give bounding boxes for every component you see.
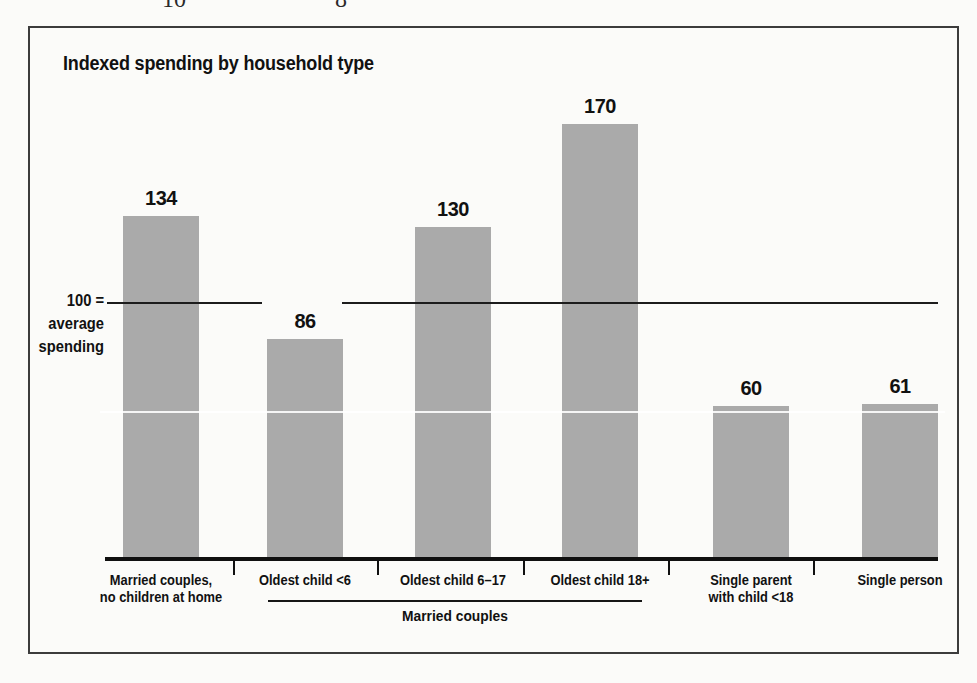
bar-value-label-single-person: 61 xyxy=(889,374,910,398)
reference-line xyxy=(342,302,938,304)
category-label-single-person: Single person xyxy=(857,572,942,589)
axis-tick xyxy=(813,559,815,575)
x-axis-line xyxy=(105,557,938,561)
reference-line-label-line: 100 = xyxy=(23,289,104,312)
bar-value-label-married-couples-no-children-at-home: 134 xyxy=(145,186,177,210)
axis-tick xyxy=(523,559,525,575)
category-label-married-couples-no-children-at-home: Married couples,no children at home xyxy=(100,572,222,606)
category-label-oldest-child-6-17: Oldest child 6–17 xyxy=(400,572,506,589)
bar-value-label-oldest-child-lt-6: 86 xyxy=(294,309,315,333)
group-bracket-line xyxy=(268,600,642,602)
scanned-page: 10 8 Indexed spending by household type … xyxy=(0,0,977,683)
axis-tick xyxy=(668,559,670,575)
cropped-text-fragment: 8 xyxy=(335,0,357,11)
reference-line-label-line: spending xyxy=(23,335,104,358)
chart-title: Indexed spending by household type xyxy=(63,52,374,75)
bar-single-person xyxy=(862,404,938,560)
reference-line xyxy=(107,302,262,304)
bar-oldest-child-lt-6 xyxy=(267,339,343,560)
bar-oldest-child-6-17 xyxy=(415,227,491,560)
scan-artifact-line xyxy=(100,411,945,413)
bar-oldest-child-18-plus xyxy=(562,124,638,560)
bar-single-parent-with-child-lt-18 xyxy=(713,406,789,560)
reference-line-label-line: average xyxy=(23,312,104,335)
reference-line-label: 100 = average spending xyxy=(23,289,104,358)
category-label-oldest-child-lt-6: Oldest child <6 xyxy=(259,572,351,589)
bar-value-label-oldest-child-6-17: 130 xyxy=(437,197,469,221)
category-label-oldest-child-18-plus: Oldest child 18+ xyxy=(550,572,649,589)
bar-married-couples-no-children-at-home xyxy=(123,216,199,560)
bar-value-label-oldest-child-18-plus: 170 xyxy=(584,94,616,118)
group-bracket-label: Married couples xyxy=(402,607,508,624)
axis-tick xyxy=(377,559,379,575)
category-label-single-parent-with-child-lt-18: Single parentwith child <18 xyxy=(709,572,794,606)
bar-value-label-single-parent-with-child-lt-18: 60 xyxy=(740,376,761,400)
axis-tick xyxy=(233,559,235,575)
cropped-text-fragment: 10 xyxy=(162,0,204,11)
